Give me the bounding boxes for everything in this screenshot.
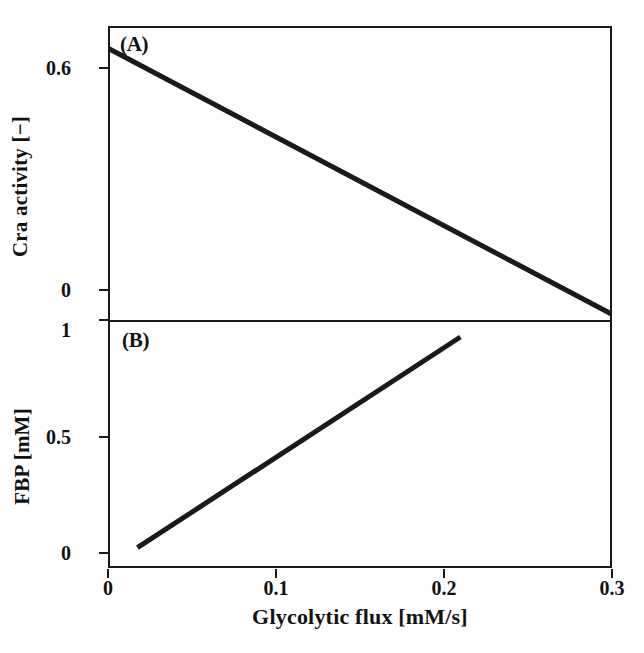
xtick-label-0.2: 0.2 bbox=[432, 578, 457, 598]
xtick-label-0: 0 bbox=[103, 578, 113, 598]
panel-b-ytick-label-0.5: 0.5 bbox=[46, 427, 71, 447]
xtick-label-0.3: 0.3 bbox=[600, 578, 625, 598]
figure-root: (A) 0.6 0 Cra activity [−] (B) 1 0.5 0 F… bbox=[0, 0, 644, 653]
panel-b-ytick-mark-0.5 bbox=[99, 436, 108, 438]
panel-b-letter: (B) bbox=[122, 328, 149, 353]
xtick-label-0.1: 0.1 bbox=[264, 578, 289, 598]
panel-b-ytick-mark-1 bbox=[99, 319, 108, 321]
panel-b-data-line bbox=[0, 0, 644, 653]
panel-b-y-axis-title-text: FBP [mM] bbox=[10, 408, 35, 505]
x-axis-title: Glycolytic flux [mM/s] bbox=[252, 604, 468, 630]
panel-b-ytick-mark-0 bbox=[99, 552, 108, 554]
panel-b-ytick-label-1: 1 bbox=[61, 320, 71, 340]
panel-b-ytick-label-0: 0 bbox=[61, 543, 71, 563]
